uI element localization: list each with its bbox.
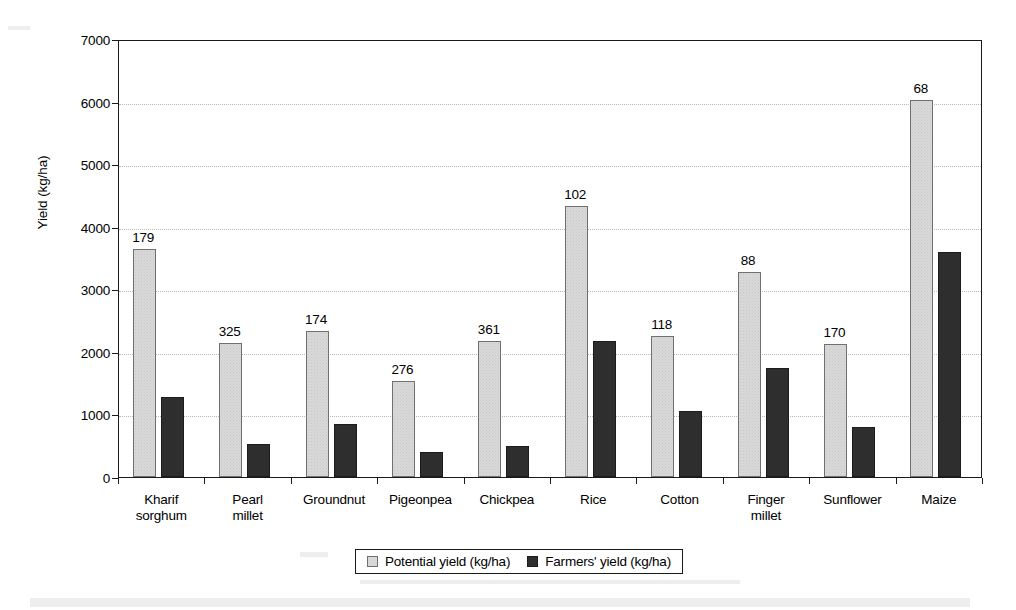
legend-label-farmers-yield: Farmers' yield (kg/ha): [545, 554, 671, 569]
bar-value-label: 179: [120, 231, 167, 245]
bar-value-label: 102: [552, 188, 599, 202]
x-axis-tick-mark: [464, 478, 465, 484]
bar-farmers-yield: [334, 424, 357, 477]
bar-potential-yield: [133, 249, 156, 477]
plot-area: [118, 40, 982, 478]
y-axis-tick-label: 7000: [14, 34, 110, 48]
bar-farmers-yield: [506, 446, 529, 477]
legend-swatch-potential-yield: [367, 556, 378, 567]
y-axis-tick-label: 4000: [14, 222, 110, 236]
x-axis-tick-mark: [896, 478, 897, 484]
bar-farmers-yield: [852, 427, 875, 477]
x-axis-tick-mark: [377, 478, 378, 484]
bar-potential-yield: [306, 331, 329, 477]
legend-swatch-farmers-yield: [527, 556, 538, 567]
bar-farmers-yield: [938, 252, 961, 477]
x-axis-tick-mark: [204, 478, 205, 484]
legend: Potential yield (kg/ha) Farmers' yield (…: [355, 549, 683, 574]
bar-value-label: 174: [293, 313, 340, 327]
bar-value-label: 170: [811, 326, 858, 340]
gridline: [119, 229, 981, 230]
bar-potential-yield: [565, 206, 588, 477]
y-axis-tick-label: 1000: [14, 409, 110, 423]
bar-farmers-yield: [247, 444, 270, 477]
bar-value-label: 276: [379, 363, 426, 377]
bar-farmers-yield: [593, 341, 616, 477]
bar-value-label: 88: [725, 254, 772, 268]
gridline: [119, 416, 981, 417]
scan-artifact: [30, 598, 970, 607]
x-axis-tick-mark: [982, 478, 983, 484]
gridline: [119, 354, 981, 355]
bar-value-label: 68: [897, 82, 944, 96]
y-axis-tick-label: 6000: [14, 97, 110, 111]
bar-value-label: 118: [638, 318, 685, 332]
bar-farmers-yield: [766, 368, 789, 477]
x-axis-tick-mark: [636, 478, 637, 484]
scan-artifact: [300, 552, 328, 557]
scan-artifact: [8, 26, 30, 30]
bar-chart-figure: Yield (kg/ha) 01000200030004000500060007…: [0, 0, 1016, 610]
bar-potential-yield: [910, 100, 933, 477]
gridline: [119, 166, 981, 167]
legend-label-potential-yield: Potential yield (kg/ha): [385, 554, 510, 569]
bar-potential-yield: [824, 344, 847, 477]
y-axis-tick-label: 5000: [14, 159, 110, 173]
bar-farmers-yield: [420, 452, 443, 477]
y-axis-tick-label: 2000: [14, 347, 110, 361]
x-axis-tick-mark: [723, 478, 724, 484]
bar-farmers-yield: [679, 411, 702, 477]
bar-value-label: 325: [206, 325, 253, 339]
gridline: [119, 291, 981, 292]
y-axis-title: Yield (kg/ha): [35, 123, 50, 263]
bar-potential-yield: [392, 381, 415, 477]
x-axis-tick-mark: [550, 478, 551, 484]
bar-potential-yield: [651, 336, 674, 477]
bar-potential-yield: [219, 343, 242, 477]
x-axis-tick-mark: [291, 478, 292, 484]
gridline: [119, 104, 981, 105]
bar-potential-yield: [478, 341, 501, 477]
bar-value-label: 361: [465, 323, 512, 337]
legend-entry-farmers-yield: Farmers' yield (kg/ha): [527, 554, 671, 569]
x-axis-tick-mark: [118, 478, 119, 484]
scan-artifact: [360, 580, 740, 584]
bar-farmers-yield: [161, 397, 184, 477]
bar-potential-yield: [738, 272, 761, 477]
x-axis-tick-mark: [809, 478, 810, 484]
y-axis-tick-label: 0: [14, 472, 110, 486]
x-axis-category-label: Maize: [886, 492, 992, 508]
y-axis-tick-label: 3000: [14, 284, 110, 298]
legend-entry-potential-yield: Potential yield (kg/ha): [367, 554, 510, 569]
